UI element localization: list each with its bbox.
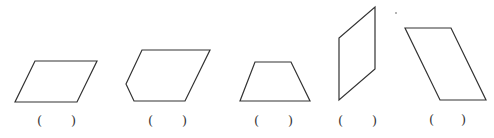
parallelogram-shape-4 (339, 7, 375, 100)
parallelogram-shape-5 (405, 28, 486, 100)
answer-blank-5-open: ( (429, 113, 434, 126)
answer-blank-1-open: ( (37, 114, 42, 127)
answer-blank-3-open: ( (254, 114, 259, 127)
parallelogram-shape-1 (15, 61, 97, 102)
answer-blank-3-close: ) (288, 114, 293, 127)
answer-blank-2-close: ) (182, 114, 187, 127)
stray-dot (395, 12, 397, 14)
answer-blank-5-close: ) (461, 113, 466, 126)
trapezoid-shape-3 (240, 62, 310, 101)
answer-blank-1-close: ) (71, 114, 76, 127)
answer-blank-4-open: ( (338, 114, 343, 127)
answer-blank-2-open: ( (148, 114, 153, 127)
pentagon-shape-2 (126, 50, 210, 101)
answer-blank-4-close: ) (372, 114, 377, 127)
